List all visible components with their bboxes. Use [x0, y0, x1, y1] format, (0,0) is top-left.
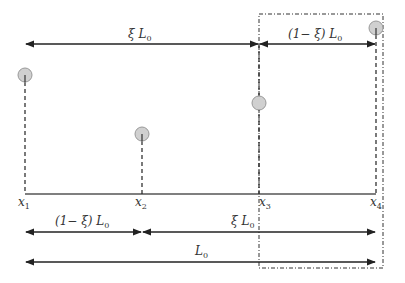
- node-x2: [135, 127, 149, 141]
- label-L0-total: L0: [194, 244, 208, 260]
- tick-label-x3: x3: [259, 195, 271, 211]
- tick-label-x2: x2: [135, 195, 147, 211]
- label-xi-L0-bottom: ξ L0: [231, 214, 255, 230]
- label-one-minus-xi-L0-top: (1− ξ) L0: [288, 27, 342, 43]
- diagram-canvas: x1 x2 x3 x4 ξ L0 (1− ξ) L0 (1− ξ) L0 ξ L…: [0, 0, 405, 283]
- window-box: [259, 14, 383, 268]
- tick-label-x1: x1: [18, 195, 30, 211]
- tick-label-x4: x4: [370, 195, 382, 211]
- node-x4: [369, 21, 383, 35]
- node-x1: [18, 68, 32, 82]
- label-one-minus-xi-L0-bottom: (1− ξ) L0: [55, 214, 109, 230]
- node-x3: [252, 96, 266, 110]
- label-xi-L0-top: ξ L0: [128, 27, 152, 43]
